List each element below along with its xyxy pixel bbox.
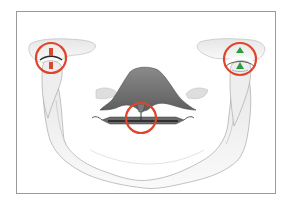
mandible-illustration	[0, 0, 288, 210]
right-skull-fragment	[197, 39, 265, 62]
left-upper-marker-icon	[49, 48, 53, 56]
left-lower-marker-icon	[49, 62, 53, 69]
